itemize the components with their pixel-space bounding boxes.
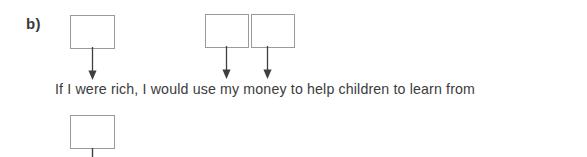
- arrow-to-my-icon: [259, 46, 276, 82]
- answer-box-1[interactable]: [70, 15, 115, 49]
- exercise-item-label: b): [26, 16, 41, 31]
- answer-box-4[interactable]: [70, 115, 115, 149]
- worksheet-exercise-canvas: b) If I were rich, I would use my money …: [0, 0, 587, 157]
- arrow-to-rich-icon: [84, 47, 101, 83]
- answer-box-2[interactable]: [205, 14, 249, 48]
- arrow-to-use-icon: [218, 46, 235, 82]
- stem-line-below-box-4: [88, 148, 97, 157]
- answer-box-3[interactable]: [251, 14, 295, 48]
- exercise-sentence: If I were rich, I would use my money to …: [55, 82, 475, 96]
